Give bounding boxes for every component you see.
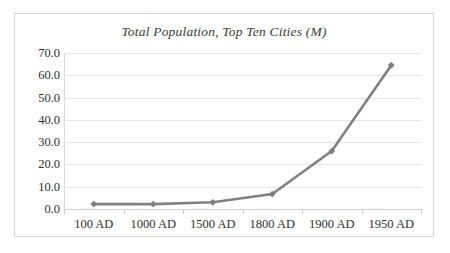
x-axis-tick-label: 1500 AD bbox=[190, 217, 236, 232]
y-axis-tick-labels: 70.060.050.040.030.020.010.00.0 bbox=[15, 53, 60, 210]
x-axis-tick-labels: 100 AD1000 AD1500 AD1800 AD1900 AD1950 A… bbox=[64, 217, 421, 237]
x-axis-tick-label: 1950 AD bbox=[369, 217, 415, 232]
x-axis-tick-label: 100 AD bbox=[74, 217, 113, 232]
y-axis-tick-label: 20.0 bbox=[38, 157, 60, 172]
x-axis-ticks bbox=[64, 209, 422, 215]
x-axis-tick bbox=[362, 209, 363, 214]
x-axis-tick-label: 1900 AD bbox=[309, 217, 355, 232]
data-point-marker bbox=[209, 199, 216, 206]
data-point-marker bbox=[150, 201, 157, 208]
x-axis-tick bbox=[64, 209, 65, 214]
y-axis-tick-label: 0.0 bbox=[44, 202, 60, 217]
series-line bbox=[94, 65, 392, 204]
y-axis-tick-label: 50.0 bbox=[38, 90, 60, 105]
x-axis-tick bbox=[124, 209, 125, 214]
x-axis-tick-label: 1000 AD bbox=[131, 217, 177, 232]
x-axis-tick bbox=[183, 209, 184, 214]
y-axis-tick-label: 10.0 bbox=[38, 179, 60, 194]
x-axis-tick bbox=[243, 209, 244, 214]
y-axis-tick-label: 40.0 bbox=[38, 112, 60, 127]
y-axis-tick-label: 60.0 bbox=[38, 68, 60, 83]
data-point-marker bbox=[90, 201, 97, 208]
plot-area bbox=[64, 53, 421, 209]
y-axis-tick-label: 30.0 bbox=[38, 135, 60, 150]
series-line-chart bbox=[64, 53, 421, 209]
x-axis-tick-label: 1800 AD bbox=[250, 217, 296, 232]
y-axis-tick-label: 70.0 bbox=[38, 46, 60, 61]
x-axis-tick bbox=[302, 209, 303, 214]
chart-title: Total Population, Top Ten Cities (M) bbox=[15, 24, 433, 40]
x-axis-tick bbox=[421, 209, 422, 214]
chart-container: Total Population, Top Ten Cities (M) 70.… bbox=[14, 13, 434, 237]
